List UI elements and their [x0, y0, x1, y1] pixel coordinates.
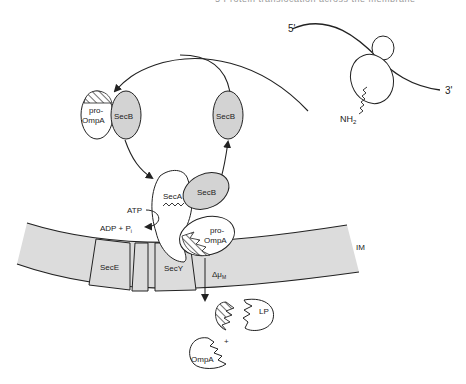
secb-proompa-complex: pro- OmpA SecB — [81, 91, 141, 139]
free-secb-label: SecB — [216, 112, 235, 121]
atp-label: ATP — [127, 206, 142, 215]
ribosome-large-subunit — [344, 48, 401, 109]
secy-partner-segment — [132, 243, 148, 291]
plus-sign: + — [224, 337, 229, 346]
ribosome-to-secb-arrow — [115, 59, 308, 111]
mrna-5prime-label: 5' — [288, 23, 296, 34]
secy-label: SecY — [164, 264, 184, 273]
nh2-label: NH2 — [340, 114, 357, 125]
membrane-label: IM — [356, 243, 365, 252]
seca-secb-label: SecB — [197, 188, 216, 197]
seca-label: SecA — [163, 192, 183, 201]
mrna-3prime-label: 3' — [445, 85, 453, 96]
secb-label: SecB — [114, 112, 133, 121]
secb-recycle-arc — [180, 55, 230, 92]
adp-label: ADP + Pi — [100, 224, 132, 234]
proompa-signal-hatch — [84, 91, 112, 103]
mature-ompa: OmpA — [190, 338, 226, 369]
ribosome-group: 5' 3' NH2 — [288, 23, 453, 125]
ompa-label: OmpA — [191, 355, 214, 364]
leader-peptidase: LP — [216, 299, 274, 330]
seca-proompa-label-line1: pro- — [210, 226, 225, 235]
translocation-diagram: 5' 3' NH2 pro- OmpA SecB SecB SecE SecY … — [0, 0, 466, 384]
proompa-label-line1: pro- — [89, 106, 104, 115]
lp-label: LP — [259, 307, 269, 316]
cleaved-signal-hatch — [216, 302, 235, 330]
secb-release-arrow — [221, 142, 228, 178]
proompa-label-line2: OmpA — [82, 116, 105, 125]
sece-label: SecE — [100, 263, 119, 272]
seca-proompa-label-line2: OmpA — [204, 236, 227, 245]
complex-to-seca-arrow — [125, 140, 152, 178]
seca-complex: SecA SecB pro- OmpA — [152, 165, 239, 262]
free-secb: SecB — [213, 91, 243, 139]
